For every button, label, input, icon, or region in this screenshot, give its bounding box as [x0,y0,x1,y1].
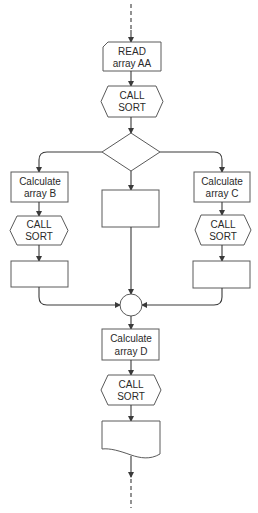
call-sort-c-line1: CALL [210,219,235,230]
merge-connector-circle[interactable] [120,294,142,316]
edge-decision-to-calc-b [39,152,102,172]
call-sort-c-line2: SORT [209,231,237,242]
read-node-line2: array AA [113,58,152,69]
calculate-array-c-node[interactable]: Calculate array C [194,172,250,202]
edge-empty-b-to-connector [39,287,120,305]
call-sort-node-b[interactable]: CALL SORT [10,216,68,245]
call-sort-node-1[interactable]: CALL SORT [101,86,163,117]
read-array-aa-node[interactable]: READ array AA [103,42,161,71]
calc-d-line2: array D [115,346,148,357]
calc-b-line2: array B [24,188,57,199]
call-sort-d-line1: CALL [118,379,143,390]
calc-b-line1: Calculate [19,176,61,187]
calc-d-line1: Calculate [110,333,152,344]
call-sort-node-c[interactable]: CALL SORT [195,215,251,245]
edge-empty-c-to-connector [142,288,222,305]
call-sort-b-line2: SORT [25,231,53,242]
empty-process-node-middle[interactable] [102,190,159,227]
call-sort-1-line1: CALL [119,90,144,101]
decision-diamond-node[interactable] [102,133,160,171]
empty-process-node-b[interactable] [11,261,68,287]
calculate-array-b-node[interactable]: Calculate array B [11,172,68,202]
call-sort-node-d[interactable]: CALL SORT [101,375,161,405]
edge-decision-to-calc-c [160,152,222,172]
read-node-line1: READ [118,46,146,57]
call-sort-d-line2: SORT [117,391,145,402]
calculate-array-d-node[interactable]: Calculate array D [102,329,159,360]
calc-c-line2: array C [206,188,239,199]
call-sort-1-line2: SORT [118,102,146,113]
empty-process-node-c[interactable] [193,261,250,288]
output-document-node[interactable] [102,421,160,458]
call-sort-b-line1: CALL [26,219,51,230]
flowchart-canvas: READ array AA CALL SORT Calculate array … [0,0,258,513]
calc-c-line1: Calculate [201,176,243,187]
